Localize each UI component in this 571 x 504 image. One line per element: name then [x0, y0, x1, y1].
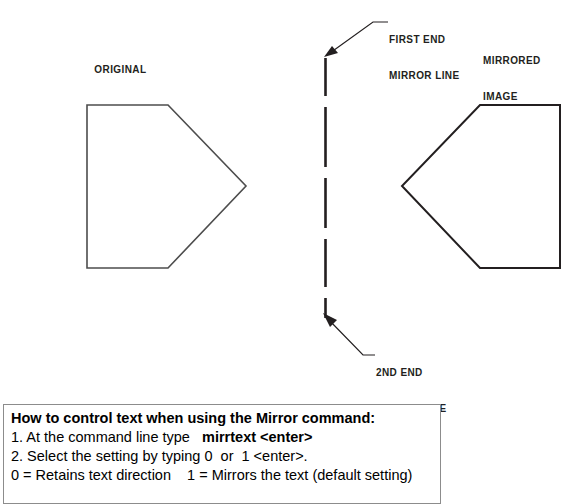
- instruction-settings: 0 = Retains text direction 1 = Mirrors t…: [11, 466, 438, 485]
- label-original-text: ORIGINAL: [94, 64, 146, 75]
- instruction-step-2: 2. Select the setting by typing 0 or 1 <…: [11, 447, 438, 466]
- second-end-leader-line: [329, 320, 375, 355]
- instruction-step-1-command: mirrtext <enter>: [202, 429, 312, 445]
- original-pentagon-shape: [87, 105, 246, 268]
- label-first-end-line1: FIRST END: [389, 34, 460, 46]
- first-end-leader-line: [330, 22, 388, 53]
- label-mirrored-image: MIRRORED IMAGE: [483, 31, 541, 115]
- first-end-arrowhead-icon: [324, 46, 338, 57]
- instruction-box-lines: How to control text when using the Mirro…: [11, 409, 438, 485]
- instruction-step-1-prefix: 1. At the command line type: [11, 429, 202, 445]
- instruction-box: How to control text when using the Mirro…: [3, 404, 441, 504]
- label-mirrored-line2: IMAGE: [483, 91, 541, 103]
- mirrored-pentagon-shape: [402, 105, 560, 268]
- instruction-step-1: 1. At the command line type mirrtext <en…: [11, 428, 438, 447]
- label-original: ORIGINAL: [88, 52, 146, 76]
- label-mirrored-line1: MIRRORED: [483, 55, 541, 67]
- label-second-end-line1: 2ND END: [376, 367, 447, 379]
- label-first-end-line2: MIRROR LINE: [389, 70, 460, 82]
- second-end-arrowhead-icon: [323, 313, 337, 327]
- label-first-end-mirror-line: FIRST END MIRROR LINE: [389, 10, 460, 94]
- instruction-heading: How to control text when using the Mirro…: [11, 409, 438, 428]
